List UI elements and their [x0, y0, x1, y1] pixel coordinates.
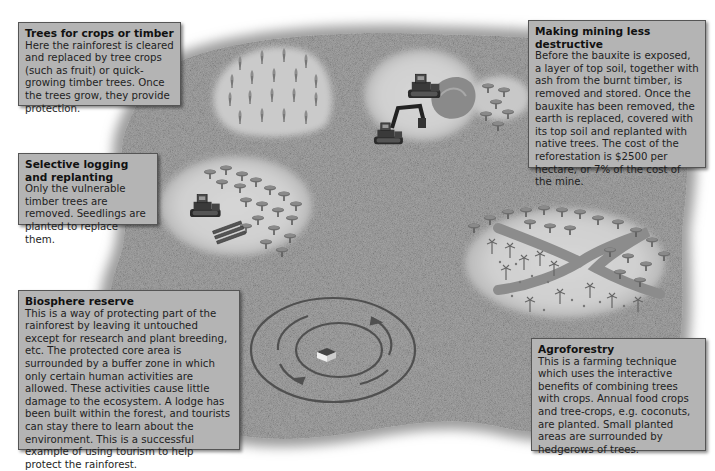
biosphere-reserve-text: This is a way of protecting part of the …: [25, 308, 233, 471]
agroforestry-box: Agroforestry This is a farming technique…: [531, 338, 706, 451]
biosphere-reserve-title: Biosphere reserve: [25, 295, 233, 308]
mining-text: Before the bauxite is exposed, a layer o…: [535, 50, 699, 189]
biosphere-reserve-box: Biosphere reserve This is a way of prote…: [18, 290, 240, 450]
agroforestry-text: This is a farming technique which uses t…: [538, 356, 699, 457]
trees-for-crops-text: Here the rainforest is cleared and repla…: [25, 40, 174, 116]
selective-logging-title: Selective logging and replanting: [25, 158, 151, 183]
mining-title: Making mining less destructive: [535, 25, 699, 50]
agroforestry-title: Agroforestry: [538, 343, 699, 356]
selective-logging-text: Only the vulnerable timber trees are rem…: [25, 183, 151, 246]
trees-for-crops-box: Trees for crops or timber Here the rainf…: [18, 22, 181, 106]
mining-box: Making mining less destructive Before th…: [528, 20, 706, 168]
trees-for-crops-title: Trees for crops or timber: [25, 27, 174, 40]
selective-logging-box: Selective logging and replanting Only th…: [18, 153, 158, 225]
